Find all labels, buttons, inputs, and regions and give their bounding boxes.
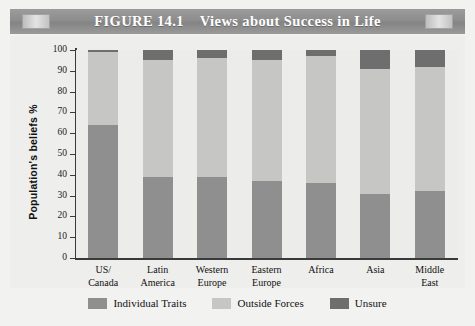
bar-segment[interactable] — [360, 194, 390, 258]
legend-swatch — [88, 298, 107, 309]
bar-segment[interactable] — [252, 50, 282, 60]
bar-segment[interactable] — [415, 191, 445, 258]
legend-label: Outside Forces — [237, 297, 303, 309]
bar-segment[interactable] — [197, 177, 227, 258]
bar-segment[interactable] — [88, 125, 118, 258]
banner-cap-left-icon — [22, 14, 50, 29]
bar-segment[interactable] — [252, 60, 282, 181]
legend-item[interactable]: Unsure — [330, 297, 387, 309]
bar-group[interactable] — [197, 50, 227, 258]
bar-segment[interactable] — [306, 50, 336, 56]
bar-segment[interactable] — [252, 181, 282, 258]
bar-segment[interactable] — [88, 52, 118, 125]
bar-group[interactable] — [88, 50, 118, 258]
bar-segment[interactable] — [88, 50, 118, 52]
y-tick-label: 50 — [10, 148, 67, 158]
bar-segment[interactable] — [306, 56, 336, 183]
y-tick-label: 30 — [10, 190, 67, 200]
bar-segment[interactable] — [143, 60, 173, 176]
bar-group[interactable] — [143, 50, 173, 258]
x-axis-line — [75, 258, 458, 260]
y-tick-label: 90 — [10, 65, 67, 75]
legend-label: Unsure — [355, 297, 387, 309]
y-tick-mark — [70, 216, 75, 217]
bar-segment[interactable] — [415, 50, 445, 67]
x-axis-label-line: East — [394, 277, 466, 290]
y-tick-label: 0 — [10, 252, 67, 262]
y-tick-mark — [70, 196, 75, 197]
x-axis-label-line: Middle — [394, 264, 466, 277]
figure-container: FIGURE 14.1 Views about Success in Life … — [0, 0, 475, 326]
legend-item[interactable]: Outside Forces — [212, 297, 303, 309]
figure-title-banner: FIGURE 14.1 Views about Success in Life — [10, 9, 465, 34]
y-tick-mark — [70, 50, 75, 51]
legend-item[interactable]: Individual Traits — [88, 297, 186, 309]
bar-group[interactable] — [252, 50, 282, 258]
bar-group[interactable] — [306, 50, 336, 258]
y-tick-label: 60 — [10, 127, 67, 137]
chart-plot-frame: Population's beliefs % 10090807060504030… — [10, 36, 465, 288]
figure-title: FIGURE 14.1 Views about Success in Life — [94, 13, 381, 30]
y-tick-label: 80 — [10, 86, 67, 96]
legend-label: Individual Traits — [113, 297, 186, 309]
y-tick-mark — [70, 71, 75, 72]
bar-segment[interactable] — [360, 69, 390, 194]
x-axis-label: MiddleEast — [394, 264, 466, 289]
y-tick-mark — [70, 133, 75, 134]
y-tick-label: 70 — [10, 106, 67, 116]
bar-segment[interactable] — [143, 50, 173, 60]
bar-segment[interactable] — [360, 50, 390, 69]
bar-group[interactable] — [415, 50, 445, 258]
chart-plot-area — [76, 50, 457, 258]
y-tick-label: 10 — [10, 231, 67, 241]
chart-legend: Individual TraitsOutside ForcesUnsure — [10, 290, 465, 316]
y-tick-mark — [70, 92, 75, 93]
bar-segment[interactable] — [415, 67, 445, 192]
banner-cap-right-icon — [425, 14, 453, 29]
legend-swatch — [330, 298, 349, 309]
y-tick-mark — [70, 258, 75, 259]
x-axis-label-line: Europe — [231, 277, 303, 290]
bar-segment[interactable] — [197, 58, 227, 177]
y-tick-label: 20 — [10, 210, 67, 220]
y-tick-mark — [70, 112, 75, 113]
bar-segment[interactable] — [143, 177, 173, 258]
legend-swatch — [212, 298, 231, 309]
y-tick-label: 100 — [10, 44, 67, 54]
y-tick-mark — [70, 154, 75, 155]
y-tick-mark — [70, 175, 75, 176]
y-tick-mark — [70, 237, 75, 238]
y-tick-label: 40 — [10, 169, 67, 179]
bar-group[interactable] — [360, 50, 390, 258]
bar-segment[interactable] — [306, 183, 336, 258]
bar-segment[interactable] — [197, 50, 227, 58]
